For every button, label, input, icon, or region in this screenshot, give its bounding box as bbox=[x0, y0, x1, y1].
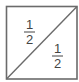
numerator-lower-right: 1 bbox=[54, 41, 61, 56]
denominator-lower-right: 2 bbox=[54, 56, 61, 71]
denominator-upper-left: 2 bbox=[26, 32, 33, 47]
half-square-diagram: 1 2 1 2 bbox=[0, 0, 79, 82]
numerator-upper-left: 1 bbox=[26, 17, 33, 32]
